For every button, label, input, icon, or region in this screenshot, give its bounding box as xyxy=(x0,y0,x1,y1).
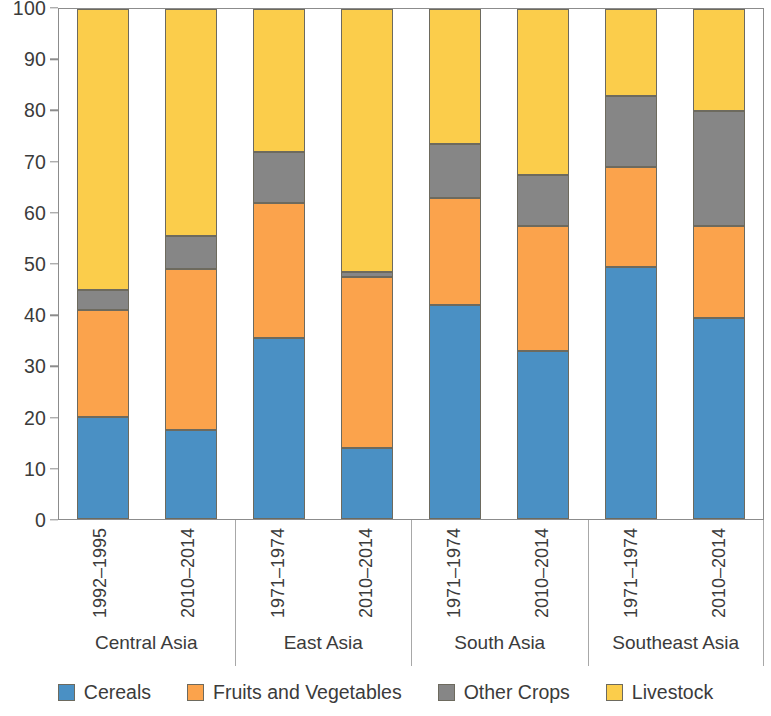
x-axis-group: 1971–19742010–2014South Asia xyxy=(411,520,588,666)
bar-segment-livestock xyxy=(517,9,569,175)
y-axis-tick-label: 0 xyxy=(35,509,46,532)
plot-area xyxy=(58,8,764,520)
y-axis-tick-label: 70 xyxy=(24,150,46,173)
legend-item-label: Other Crops xyxy=(464,681,570,704)
bar-segment-other xyxy=(605,96,657,167)
x-axis-group-label: South Asia xyxy=(412,632,588,654)
x-axis-group: 1971–19742010–2014East Asia xyxy=(235,520,412,666)
x-axis-tick-label: 1992–1995 xyxy=(90,528,111,618)
cereals-swatch xyxy=(58,684,75,701)
y-axis-tick-label: 40 xyxy=(24,304,46,327)
bar-stack xyxy=(517,9,569,519)
bar-segment-fruits xyxy=(165,269,217,430)
bar-segment-fruits xyxy=(341,277,393,448)
y-axis-tick-label: 50 xyxy=(24,253,46,276)
x-axis-tick-label: 1971–1974 xyxy=(621,528,642,618)
y-axis-tick-mark xyxy=(50,58,58,59)
chart-legend: CerealsFruits and VegetablesOther CropsL… xyxy=(0,672,771,712)
livestock-swatch xyxy=(606,684,623,701)
bar-segment-fruits xyxy=(693,226,745,318)
bar-segment-fruits xyxy=(253,203,305,338)
bar-segment-livestock xyxy=(693,9,745,111)
x-axis-tick-label: 1971–1974 xyxy=(444,528,465,618)
bar-segment-cereals xyxy=(605,267,657,519)
bar-segment-fruits xyxy=(429,198,481,305)
y-axis-tick-mark xyxy=(50,314,58,315)
bar-stack xyxy=(77,9,129,519)
other-crops-swatch xyxy=(438,684,455,701)
x-axis-group-label: East Asia xyxy=(236,632,412,654)
y-axis-tick-mark xyxy=(50,468,58,469)
y-axis-tick-mark xyxy=(50,417,58,418)
bar-segment-other xyxy=(165,236,217,269)
bar-segment-livestock xyxy=(341,9,393,272)
bar-stack xyxy=(605,9,657,519)
bar-segment-livestock xyxy=(429,9,481,144)
legend-item: Other Crops xyxy=(438,681,570,704)
legend-item-label: Fruits and Vegetables xyxy=(213,681,402,704)
bar-container xyxy=(59,9,763,519)
legend-item-label: Cereals xyxy=(84,681,151,704)
fruits-and-vegetables-swatch xyxy=(187,684,204,701)
y-axis-tick-mark xyxy=(50,7,58,8)
bar-segment-fruits xyxy=(77,310,129,417)
legend-item: Fruits and Vegetables xyxy=(187,681,402,704)
bar-segment-cereals xyxy=(77,417,129,519)
y-axis-tick-mark xyxy=(50,161,58,162)
x-axis-tick-label: 2010–2014 xyxy=(178,528,199,618)
legend-item: Livestock xyxy=(606,681,713,704)
y-axis-tick-mark xyxy=(50,519,58,520)
bar-segment-fruits xyxy=(605,167,657,266)
bar-segment-cereals xyxy=(429,305,481,519)
y-axis-tick-label: 80 xyxy=(24,99,46,122)
bar-segment-cereals xyxy=(517,351,569,519)
bar-segment-cereals xyxy=(253,338,305,519)
y-axis-tick-label: 20 xyxy=(24,406,46,429)
bar-segment-other xyxy=(77,290,129,310)
legend-item: Cereals xyxy=(58,681,151,704)
bar-segment-livestock xyxy=(605,9,657,96)
bar-segment-livestock xyxy=(253,9,305,152)
y-axis-tick-label: 30 xyxy=(24,355,46,378)
bar-segment-cereals xyxy=(341,448,393,519)
bar-segment-other xyxy=(517,175,569,226)
bar-segment-other xyxy=(253,152,305,203)
y-axis: 1009080706050403020100 xyxy=(0,0,58,540)
bar-segment-livestock xyxy=(77,9,129,290)
legend-item-label: Livestock xyxy=(632,681,713,704)
bar-stack xyxy=(429,9,481,519)
y-axis-tick-label: 90 xyxy=(24,48,46,71)
bar-stack xyxy=(165,9,217,519)
y-axis-tick-label: 10 xyxy=(24,457,46,480)
y-axis-tick-mark xyxy=(50,366,58,367)
bar-stack xyxy=(693,9,745,519)
x-axis-group-label: Central Asia xyxy=(58,632,235,654)
bar-segment-other xyxy=(341,272,393,277)
bar-segment-fruits xyxy=(517,226,569,351)
y-axis-tick-mark xyxy=(50,212,58,213)
stacked-bar-chart: 1009080706050403020100 1992–19952010–201… xyxy=(0,0,771,716)
x-axis-tick-label: 2010–2014 xyxy=(532,528,553,618)
x-axis-tick-label: 2010–2014 xyxy=(709,528,730,618)
x-axis-group: 1992–19952010–2014Central Asia xyxy=(58,520,235,666)
y-axis-tick-label: 100 xyxy=(13,0,46,20)
y-axis-tick-label: 60 xyxy=(24,201,46,224)
x-axis-group: 1971–19742010–2014Southeast Asia xyxy=(588,520,765,666)
bar-stack xyxy=(341,9,393,519)
x-axis-tick-label: 2010–2014 xyxy=(356,528,377,618)
x-axis-group-label: Southeast Asia xyxy=(589,632,764,654)
bar-stack xyxy=(253,9,305,519)
bar-segment-livestock xyxy=(165,9,217,236)
x-axis: 1992–19952010–2014Central Asia1971–19742… xyxy=(58,520,764,666)
bar-segment-cereals xyxy=(165,430,217,519)
y-axis-tick-mark xyxy=(50,110,58,111)
y-axis-tick-mark xyxy=(50,263,58,264)
bar-segment-other xyxy=(693,111,745,226)
bar-segment-other xyxy=(429,144,481,198)
bar-segment-cereals xyxy=(693,318,745,519)
x-axis-tick-label: 1971–1974 xyxy=(268,528,289,618)
